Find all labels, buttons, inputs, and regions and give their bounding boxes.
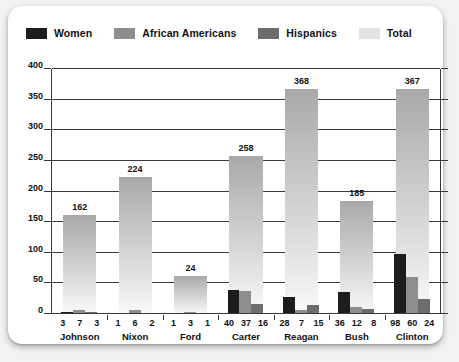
total-value-label: 224 [128,164,143,174]
x-tick-mark [274,315,275,320]
y-tick-mark [441,160,448,161]
x-value-label: 12 [348,318,365,328]
legend-swatch-icon [26,28,47,39]
x-group-nixon: 162Nixon [107,315,162,342]
x-category-label: Carter [218,331,273,342]
bar-total [119,177,152,314]
x-value-label: 60 [404,318,421,328]
x-group-bush: 36128Bush [329,315,384,342]
x-category-label: Bush [329,331,384,342]
x-tick-mark [385,315,386,320]
bar-women [338,292,350,314]
x-group-values: 28715 [274,318,329,328]
bar-hispanics [418,299,430,314]
total-value-label: 162 [72,202,87,212]
y-tick-label: 100 [28,244,43,254]
x-group-clinton: 986024Clinton [385,315,440,342]
y-tick-label: 200 [28,183,43,193]
x-value-label: 8 [365,318,382,328]
x-group-johnson: 373Johnson [52,315,107,342]
y-tick-mark [441,129,448,130]
x-value-label: 16 [254,318,271,328]
x-value-label: 3 [88,318,105,328]
legend-label: African Americans [142,27,236,39]
bar-group: 162 [52,69,107,314]
legend-item-total: Total [359,27,412,39]
y-tick-mark [44,99,51,100]
y-axis-right [440,69,441,314]
y-tick-mark [44,221,51,222]
bar-african-americans [239,291,251,314]
bar-group: 24 [163,69,218,314]
x-tick-mark [163,315,164,320]
y-tick-mark [44,252,51,253]
chart-legend: Women African Americans Hispanics Total [26,27,434,39]
x-group-reagan: 28715Reagan [274,315,329,342]
y-tick-label: 0 [38,305,43,315]
y-tick-mark [441,221,448,222]
x-value-label: 1 [165,318,182,328]
x-tick-mark [218,315,219,320]
x-value-label: 98 [387,318,404,328]
x-group-carter: 403716Carter [218,315,273,342]
bar-group: 368 [274,69,329,314]
bar-women [283,297,295,314]
total-value-label: 368 [294,76,309,86]
x-value-label: 24 [421,318,438,328]
x-group-values: 131 [163,318,218,328]
x-value-label: 7 [293,318,310,328]
x-value-label: 37 [237,318,254,328]
y-tick-mark [44,313,51,314]
legend-item-women: Women [26,27,92,39]
y-tick-label: 400 [28,60,43,70]
x-group-ford: 131Ford [163,315,218,342]
bar-group: 258 [218,69,273,314]
x-tick-mark [107,315,108,320]
x-category-label: Johnson [52,331,107,342]
bar-group: 224 [107,69,162,314]
x-group-values: 986024 [385,318,440,328]
legend-swatch-icon [258,28,279,39]
bar-african-americans [406,277,418,314]
x-category-label: Nixon [107,331,162,342]
x-axis-baseline [52,313,440,314]
x-category-label: Reagan [274,331,329,342]
y-tick-label: 150 [28,213,43,223]
bar-group: 185 [329,69,384,314]
x-axis-labels: 373Johnson162Nixon131Ford403716Carter287… [52,315,440,349]
x-group-values: 36128 [329,318,384,328]
x-value-label: 1 [199,318,216,328]
x-value-label: 2 [144,318,161,328]
chart-card: Women African Americans Hispanics Total … [8,6,443,344]
bar-total [174,276,207,314]
bar-women [394,254,406,314]
legend-swatch-icon [114,28,135,39]
legend-item-african-americans: African Americans [114,27,236,39]
x-tick-mark [329,315,330,320]
x-value-label: 28 [276,318,293,328]
legend-label: Total [387,27,412,39]
x-value-label: 40 [220,318,237,328]
x-group-values: 373 [52,318,107,328]
x-group-values: 403716 [218,318,273,328]
y-tick-mark [44,191,51,192]
y-tick-mark [44,68,51,69]
y-tick-mark [441,313,448,314]
y-tick-mark [441,282,448,283]
y-tick-mark [441,99,448,100]
y-tick-label: 250 [28,152,43,162]
bar-group: 367 [385,69,440,314]
x-value-label: 7 [71,318,88,328]
x-value-label: 6 [127,318,144,328]
plot-area: 050100150200250300350400 162224242583681… [52,63,440,314]
y-tick-label: 350 [28,91,43,101]
y-tick-mark [441,191,448,192]
y-tick-mark [441,252,448,253]
y-tick-mark [44,282,51,283]
bar-total [285,89,318,314]
y-tick-mark [44,129,51,130]
y-tick-mark [44,160,51,161]
legend-swatch-icon [359,28,380,39]
legend-item-hispanics: Hispanics [258,27,337,39]
x-value-label: 3 [54,318,71,328]
